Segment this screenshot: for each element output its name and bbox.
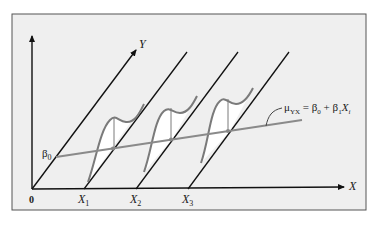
origin-label: 0 (29, 194, 34, 205)
mean-point-2 (169, 138, 173, 142)
x-axis-label: X (348, 179, 357, 193)
mean-point-1 (111, 147, 115, 151)
regression-diagram: Y X 0 β0 X1 X2 X3 μYX = β0 + β1Xi (0, 0, 379, 227)
mean-point-3 (226, 129, 230, 133)
